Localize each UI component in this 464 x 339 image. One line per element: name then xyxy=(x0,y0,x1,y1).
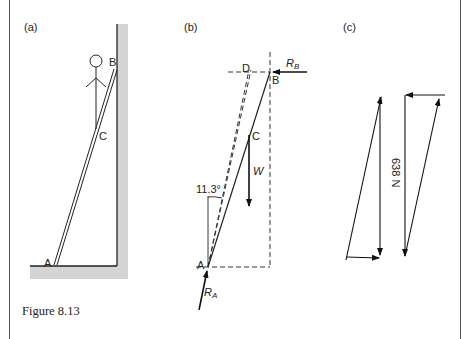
triangle-2-diagonal-arrow xyxy=(405,99,439,256)
triangle-1-diagonal-arrow xyxy=(346,97,381,260)
triangle-1-horizontal-arrow xyxy=(346,257,379,258)
point-c-label-b: C xyxy=(252,130,260,142)
point-a-label-b: A xyxy=(197,259,205,271)
panel-c-label: (c) xyxy=(343,21,356,33)
dashed-line-a-d xyxy=(208,70,249,267)
ladder-rail-right xyxy=(57,70,117,265)
weight-label: W xyxy=(253,165,265,177)
panel-a: (a) B C A xyxy=(24,21,128,279)
angle-arc xyxy=(208,197,222,198)
magnitude-label: 638 N xyxy=(390,158,402,187)
panel-b-label: (b) xyxy=(184,21,197,33)
figure-caption: Figure 8.13 xyxy=(22,304,80,318)
dashed-line-a-d-2 xyxy=(208,70,251,267)
panel-c: (c) 638 N xyxy=(343,21,445,260)
ladder-rail-left xyxy=(54,69,114,265)
panel-b: (b) 11.3° W RB RA D B C A xyxy=(184,21,307,310)
wall-shading xyxy=(117,24,128,274)
point-b-label: B xyxy=(109,56,116,68)
point-b-label-b: B xyxy=(272,74,279,86)
panel-a-label: (a) xyxy=(24,21,37,33)
point-c-label: C xyxy=(99,130,107,142)
angle-label: 11.3° xyxy=(196,183,221,195)
ra-label: RA xyxy=(204,286,217,300)
rb-label: RB xyxy=(286,57,300,71)
point-a-label: A xyxy=(44,257,52,269)
point-d-label: D xyxy=(242,62,250,74)
person-icon xyxy=(86,55,106,129)
